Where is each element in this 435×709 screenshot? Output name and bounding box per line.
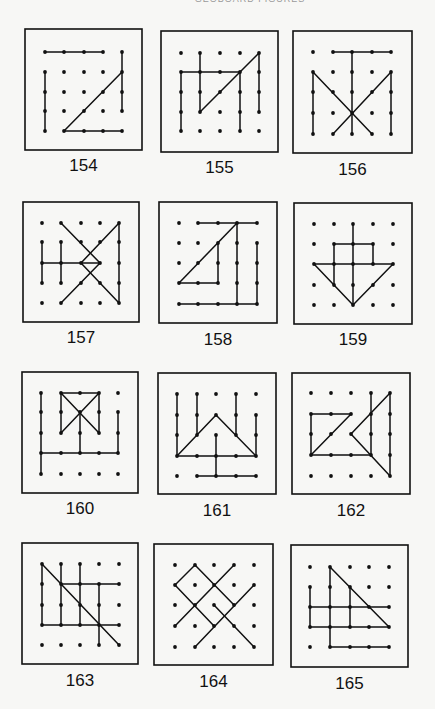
peg-dot (391, 303, 395, 307)
peg-dot (389, 50, 393, 54)
peg-dot (177, 241, 181, 245)
peg-dot (43, 70, 47, 74)
peg-dot (234, 413, 238, 417)
peg-dot (117, 261, 121, 265)
peg-dot (309, 391, 313, 395)
peg-dot (328, 565, 332, 569)
peg-dot (348, 645, 352, 649)
peg-dot (40, 562, 44, 566)
peg-dot (252, 603, 256, 607)
peg-dot (308, 625, 312, 629)
peg-dot (117, 562, 121, 566)
peg-dot (235, 261, 239, 265)
geoboard-figure-161 (158, 373, 276, 494)
peg-dot (350, 70, 354, 74)
peg-dot (59, 431, 63, 435)
peg-dot (311, 90, 315, 94)
peg-dot (179, 90, 183, 94)
peg-dot (252, 583, 256, 587)
peg-dot (235, 221, 239, 225)
peg-dot (120, 50, 124, 54)
peg-dot (351, 262, 355, 266)
peg-dot (82, 50, 86, 54)
peg-dot (252, 645, 256, 649)
peg-dot (332, 222, 336, 226)
geoboard-figure-157 (23, 202, 139, 322)
peg-dot (59, 410, 63, 414)
figure-number-label: 163 (50, 672, 110, 689)
peg-dot (78, 410, 82, 414)
peg-dot (350, 111, 354, 115)
peg-dot (349, 453, 353, 457)
peg-dot (193, 624, 197, 628)
peg-dot (62, 109, 66, 113)
peg-dot (331, 111, 335, 115)
peg-dot (254, 433, 258, 437)
peg-dot (370, 90, 374, 94)
peg-dot (351, 283, 355, 287)
peg-dot (120, 129, 124, 133)
peg-dot (348, 565, 352, 569)
geoboard-figure-155 (161, 31, 278, 152)
peg-dot (173, 645, 177, 649)
peg-dot (196, 281, 200, 285)
peg-dot (40, 582, 44, 586)
peg-dot (350, 132, 354, 136)
peg-dot (234, 392, 238, 396)
peg-dot (238, 110, 242, 114)
geoboard-figure-162 (292, 373, 410, 494)
peg-dot (255, 302, 259, 306)
peg-dot (328, 645, 332, 649)
peg-dot (101, 50, 105, 54)
peg-dot (311, 132, 315, 136)
peg-dot (232, 624, 236, 628)
peg-dot (97, 431, 101, 435)
peg-dot (232, 603, 236, 607)
peg-dot (39, 472, 43, 476)
figure-number-label: 159 (323, 331, 383, 348)
peg-dot (212, 563, 216, 567)
peg-dot (331, 90, 335, 94)
peg-dot (367, 645, 371, 649)
geoboard-figure-159 (294, 203, 412, 324)
peg-dot (309, 474, 313, 478)
peg-dot (214, 474, 218, 478)
peg-dot (255, 221, 259, 225)
figure-number-label: 161 (187, 502, 247, 519)
band-segment (175, 565, 195, 585)
peg-dot (351, 242, 355, 246)
peg-dot (216, 281, 220, 285)
peg-dot (59, 562, 63, 566)
peg-dot (216, 261, 220, 265)
peg-dot (117, 221, 121, 225)
peg-dot (370, 111, 374, 115)
peg-dot (234, 454, 238, 458)
figure-number-label: 157 (51, 329, 111, 346)
peg-dot (252, 563, 256, 567)
peg-dot (252, 624, 256, 628)
peg-dot (59, 261, 63, 265)
peg-dot (254, 392, 258, 396)
peg-dot (195, 474, 199, 478)
peg-dot (78, 431, 82, 435)
peg-dot (218, 90, 222, 94)
peg-dot (389, 70, 393, 74)
peg-dot (309, 432, 313, 436)
peg-dot (389, 132, 393, 136)
peg-dot (120, 70, 124, 74)
peg-dot (331, 50, 335, 54)
peg-dot (371, 222, 375, 226)
peg-dot (117, 623, 121, 627)
peg-dot (177, 261, 181, 265)
peg-dot (43, 90, 47, 94)
geoboard-figure-156 (293, 31, 412, 153)
figure-number-label: 156 (323, 161, 383, 178)
peg-dot (193, 603, 197, 607)
peg-dot (79, 261, 83, 265)
peg-dot (371, 283, 375, 287)
figure-number-label: 164 (184, 673, 244, 690)
peg-dot (235, 302, 239, 306)
peg-dot (62, 129, 66, 133)
band-segment (330, 567, 389, 627)
peg-dot (371, 242, 375, 246)
